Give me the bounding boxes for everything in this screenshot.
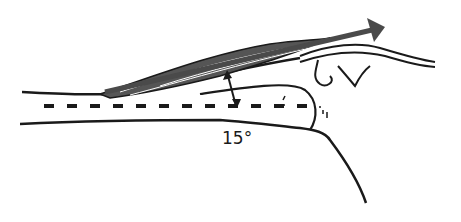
angle-label: 15° xyxy=(222,128,252,148)
anatomical-diagram: 15° xyxy=(0,0,461,222)
lower-bone-outline xyxy=(20,120,366,203)
scapula-outline xyxy=(300,45,435,86)
diagram-svg xyxy=(0,0,461,222)
